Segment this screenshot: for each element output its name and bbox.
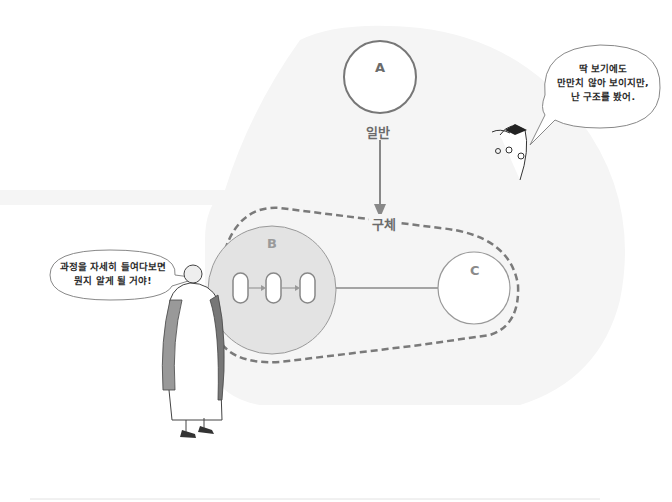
node-c-label: C: [470, 263, 480, 278]
concrete-group-label: 구체: [369, 214, 399, 233]
speech-text-right: 딱 보기에도 만만치 않아 보이지만, 난 구조를 봤어.: [548, 62, 658, 104]
process-step-1: [233, 273, 248, 303]
process-step-3: [300, 273, 315, 303]
background-band: [0, 190, 225, 205]
node-a-label: A: [375, 60, 385, 75]
speech-text-left: 과정을 자세히 들여다보면 뭔지 알게 될 거야!: [52, 260, 174, 288]
node-b-label: B: [267, 236, 277, 251]
process-step-2: [266, 273, 281, 303]
circle-a: [344, 41, 416, 113]
general-caption: 일반: [366, 122, 390, 141]
